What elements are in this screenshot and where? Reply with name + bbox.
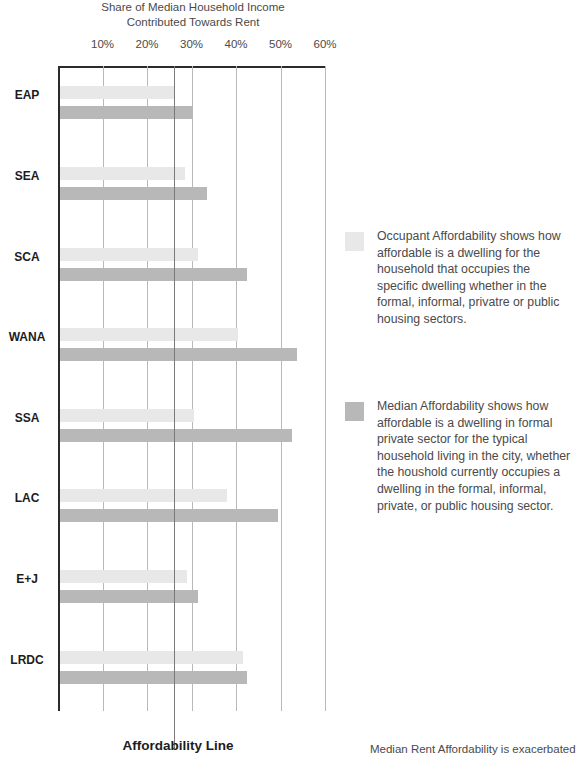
gridline-40: [236, 66, 237, 711]
x-tick-label-30: 30%: [170, 38, 214, 50]
bar-lac-occupant: [60, 489, 227, 502]
category-label-ssa: SSA: [0, 411, 54, 425]
bar-eplusj-occupant: [60, 570, 187, 583]
legend-label-occupant: Occupant Affordability shows how afforda…: [377, 228, 574, 328]
bar-sea-median: [60, 187, 207, 200]
x-tick-label-10: 10%: [81, 38, 125, 50]
bar-sca-median: [60, 268, 247, 281]
category-label-sca: SCA: [0, 250, 54, 264]
bar-wana-occupant: [60, 328, 238, 341]
gridline-10: [103, 66, 104, 711]
category-label-sea: SEA: [0, 169, 54, 183]
bar-wana-median: [60, 348, 297, 361]
chart-title: Share of Median Household Income Contrib…: [58, 0, 328, 30]
category-label-lrdc: LRDC: [0, 653, 54, 667]
bar-sca-occupant: [60, 248, 198, 261]
axis-left-rule: [58, 66, 60, 711]
x-tick-label-20: 20%: [125, 38, 169, 50]
legend-swatch-median-icon: [345, 402, 364, 421]
legend-entry-occupant: Occupant Affordability shows how afforda…: [345, 228, 574, 328]
x-tick-label-60: 60%: [303, 38, 347, 50]
gridline-50: [281, 66, 282, 711]
category-label-eplusj: E+J: [0, 572, 54, 586]
bar-eap-median: [60, 106, 192, 119]
category-label-lac: LAC: [0, 491, 54, 505]
chart-title-line-1: Share of Median Household Income: [58, 0, 328, 15]
bar-lrdc-median: [60, 671, 247, 684]
x-tick-label-40: 40%: [214, 38, 258, 50]
body-text-fragment: Median Rent Affordability is exacerbated: [370, 742, 580, 757]
bar-sea-occupant: [60, 167, 185, 180]
category-label-eap: EAP: [0, 88, 54, 102]
gridline-20: [147, 66, 148, 711]
bar-eap-occupant: [60, 86, 174, 99]
affordability-line-label: Affordability Line: [58, 738, 298, 753]
affordability-line-marker: [174, 66, 175, 749]
category-label-wana: WANA: [0, 330, 54, 344]
gridline-30: [192, 66, 193, 711]
plot-area: [58, 66, 325, 711]
chart-title-line-2: Contributed Towards Rent: [58, 15, 328, 30]
bar-lac-median: [60, 509, 278, 522]
gridline-60: [325, 66, 326, 711]
x-tick-label-50: 50%: [259, 38, 303, 50]
bar-eplusj-median: [60, 590, 198, 603]
legend-swatch-occupant-icon: [345, 232, 364, 251]
legend-entry-median: Median Affordability shows how affordabl…: [345, 398, 574, 514]
bar-lrdc-occupant: [60, 651, 243, 664]
bar-ssa-median: [60, 429, 292, 442]
legend-label-median: Median Affordability shows how affordabl…: [377, 398, 574, 514]
